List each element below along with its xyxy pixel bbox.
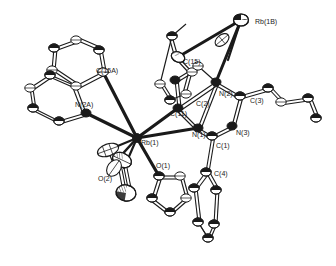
- label-c15a: C(15A): [96, 67, 118, 75]
- label-n1: N(1): [192, 131, 206, 139]
- label-n2a: N(2A): [75, 101, 93, 109]
- atom-rb1b: [234, 14, 249, 26]
- label-c4: C(4): [214, 170, 228, 178]
- label-c2: C(2): [196, 100, 210, 108]
- label-n2: N(2): [219, 90, 233, 98]
- label-o2: O(2): [98, 175, 112, 183]
- label-c1: C(1): [216, 142, 230, 150]
- label-o1: O(1): [156, 162, 170, 170]
- label-c3: C(3): [250, 97, 264, 105]
- label-rb1b: Rb(1B): [255, 18, 277, 26]
- label-n3: N(3): [236, 129, 250, 137]
- crystal-structure-figure: Rb(1B) C(15) C(15A) N(2) C(3) C(2) C(11)…: [0, 0, 336, 266]
- label-c11: C(11): [170, 110, 187, 118]
- label-c15: C(15): [183, 58, 201, 66]
- label-rb1: Rb(1): [141, 139, 159, 147]
- atom-n2a: [81, 109, 91, 117]
- ortep-diagram-canvas: Rb(1B) C(15) C(15A) N(2) C(3) C(2) C(11)…: [0, 0, 336, 266]
